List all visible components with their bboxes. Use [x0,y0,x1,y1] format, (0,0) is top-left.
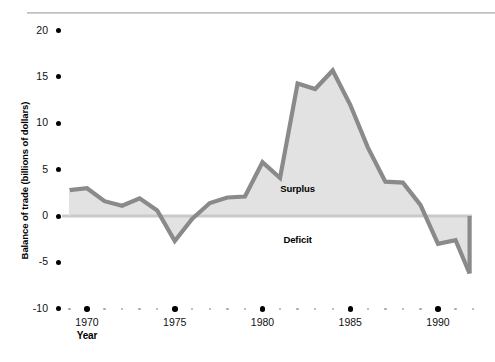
region-label-surplus: Surplus [263,183,333,194]
x-tick-dot-minor [138,308,140,310]
x-tick-dot-minor [68,308,70,310]
y-tick-label: -5 [22,255,48,267]
y-tick-label: 10 [22,116,48,128]
y-tick-dot [56,260,61,265]
y-tick-dot [56,121,61,126]
x-tick-label: 1990 [418,316,458,328]
x-tick-dot-minor [454,308,456,310]
x-axis-title: Year [67,330,107,341]
trade-balance-chart: Balance of trade (billions of dollars) 2… [0,0,495,362]
y-tick-label: 0 [22,209,48,221]
y-tick-label: 15 [22,70,48,82]
x-tick-label: 1970 [67,316,107,328]
x-tick-label: 1980 [243,316,283,328]
x-tick-label: 1985 [330,316,370,328]
region-label-deficit: Deficit [263,234,333,245]
x-tick-dot-minor [332,308,334,310]
x-tick-label: 1975 [155,316,195,328]
x-tick-dot-minor [226,308,228,310]
x-tick-dot-minor [103,308,105,310]
x-tick-dot-major [348,306,354,312]
x-tick-dot-minor [296,308,298,310]
x-tick-dot-minor [384,308,386,310]
y-tick-label: 20 [22,24,48,36]
y-tick-label: 5 [22,163,48,175]
x-tick-dot-minor [419,308,421,310]
y-tick-label: -10 [22,302,48,314]
x-tick-dot-major [172,306,178,312]
x-tick-dot-major [260,306,266,312]
x-tick-dot-major [435,306,441,312]
y-tick-dot [56,214,61,219]
x-tick-dot-major [84,306,90,312]
